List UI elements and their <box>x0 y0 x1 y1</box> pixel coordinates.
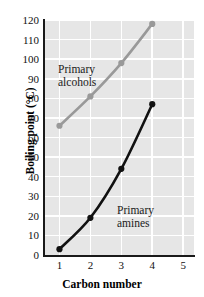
y-tick-label: 90 <box>28 73 39 84</box>
y-tick-label: 100 <box>23 54 40 65</box>
chart-figure: Boiling point (°C) 010203040506070809010… <box>0 0 204 297</box>
x-tick-label: 4 <box>149 260 155 271</box>
x-tick-label: 2 <box>88 260 94 271</box>
data-point-marker <box>118 166 124 172</box>
y-tick-label: 50 <box>28 152 39 163</box>
y-tick-label: 0 <box>34 250 40 261</box>
x-axis-tick-labels: 12345 <box>0 260 204 276</box>
y-tick-label: 120 <box>23 15 40 26</box>
y-tick-label: 70 <box>28 112 39 123</box>
data-point-marker <box>56 246 62 252</box>
series-label-primary-alcohols-line2: alcohols <box>58 76 96 89</box>
y-axis-tick-labels: 0102030405060708090100110120 <box>0 0 42 297</box>
data-point-marker <box>149 101 155 107</box>
series-label-primary-alcohols: Primary alcohols <box>58 63 96 89</box>
series-label-primary-amines-line1: Primary <box>117 204 154 217</box>
x-tick-label: 1 <box>57 260 63 271</box>
data-point-marker <box>87 93 93 99</box>
data-point-marker <box>56 123 62 129</box>
y-tick-label: 40 <box>28 171 39 182</box>
y-tick-label: 60 <box>28 132 39 143</box>
y-tick-label: 20 <box>28 210 39 221</box>
x-tick-label: 3 <box>119 260 125 271</box>
x-axis-line <box>43 255 195 257</box>
x-axis-title: Carbon number <box>0 278 204 290</box>
data-point-marker <box>149 21 155 27</box>
data-point-marker <box>87 215 93 221</box>
data-point-marker <box>118 60 124 66</box>
y-tick-label: 110 <box>23 34 39 45</box>
y-tick-label: 80 <box>28 93 39 104</box>
y-tick-label: 30 <box>28 191 39 202</box>
series-label-primary-alcohols-line1: Primary <box>58 63 96 76</box>
series-label-primary-amines-line2: amines <box>117 217 154 230</box>
x-tick-label: 5 <box>180 260 186 271</box>
y-tick-label: 10 <box>28 230 39 241</box>
series-label-primary-amines: Primary amines <box>117 204 154 230</box>
